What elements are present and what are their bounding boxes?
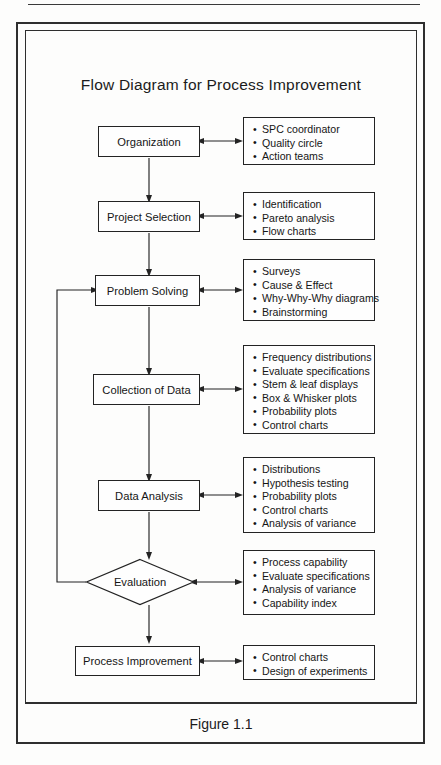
bullet-item: Stem & leaf displays	[253, 378, 368, 392]
bullets-process-improvement: Control chartsDesign of experiments	[243, 645, 375, 680]
bullet-item: Cause & Effect	[253, 279, 368, 293]
bullet-list: Frequency distributionsEvaluate specific…	[253, 351, 368, 433]
caption-divider-rule	[25, 703, 417, 704]
node-process-improvement[interactable]: Process Improvement	[75, 646, 200, 676]
node-project-selection[interactable]: Project Selection	[98, 201, 200, 232]
node-data-analysis-label: Data Analysis	[115, 490, 183, 502]
node-collection-of-data[interactable]: Collection of Data	[93, 374, 200, 405]
bullets-organization: SPC coordinatorQuality circleAction team…	[243, 117, 375, 165]
bullets-collection-of-data: Frequency distributionsEvaluate specific…	[243, 345, 375, 434]
bullet-item: Control charts	[253, 419, 368, 433]
bullets-data-analysis: DistributionsHypothesis testingProbabili…	[243, 457, 375, 533]
figure-page: Flow Diagram for Process Improvement	[0, 0, 441, 765]
bullets-problem-solving: SurveysCause & EffectWhy-Why-Why diagram…	[243, 259, 375, 321]
bullet-item: Frequency distributions	[253, 351, 368, 365]
bullet-item: Capability index	[253, 597, 368, 611]
node-organization-label: Organization	[117, 136, 180, 148]
node-evaluation-label: Evaluation	[85, 558, 195, 606]
page-header-rule	[28, 4, 420, 5]
node-problem-solving[interactable]: Problem Solving	[95, 275, 200, 306]
bullet-item: Identification	[253, 198, 368, 212]
bullet-item: Analysis of variance	[253, 517, 368, 531]
bullet-list: SurveysCause & EffectWhy-Why-Why diagram…	[253, 265, 368, 319]
bullet-item: Design of experiments	[253, 665, 368, 679]
bullet-item: Pareto analysis	[253, 212, 368, 226]
node-project-selection-label: Project Selection	[107, 211, 191, 223]
bullet-item: Hypothesis testing	[253, 477, 368, 491]
bullet-item: Flow charts	[253, 225, 368, 239]
bullet-item: Control charts	[253, 651, 368, 665]
bullets-project-selection: IdentificationPareto analysisFlow charts	[243, 192, 375, 240]
bullet-item: Control charts	[253, 504, 368, 518]
bullet-list: DistributionsHypothesis testingProbabili…	[253, 463, 368, 531]
bullet-item: Action teams	[253, 150, 368, 164]
bullet-list: Control chartsDesign of experiments	[253, 651, 368, 678]
bullet-item: SPC coordinator	[253, 123, 368, 137]
bullet-item: Analysis of variance	[253, 583, 368, 597]
bullet-list: IdentificationPareto analysisFlow charts	[253, 198, 368, 239]
figure-title: Flow Diagram for Process Improvement	[25, 76, 417, 94]
bullet-item: Why-Why-Why diagrams	[253, 292, 368, 306]
node-collection-of-data-label: Collection of Data	[102, 384, 190, 396]
bullet-item: Box & Whisker plots	[253, 392, 368, 406]
bullet-list: SPC coordinatorQuality circleAction team…	[253, 123, 368, 164]
bullet-list: Process capabilityEvaluate specification…	[253, 556, 368, 610]
bullet-item: Evaluate specifications	[253, 570, 368, 584]
bullet-item: Brainstorming	[253, 306, 368, 320]
bullet-item: Evaluate specifications	[253, 365, 368, 379]
node-data-analysis[interactable]: Data Analysis	[98, 480, 200, 511]
figure-caption: Figure 1.1	[25, 716, 417, 732]
bullets-evaluation: Process capabilityEvaluate specification…	[243, 550, 375, 615]
bullet-item: Process capability	[253, 556, 368, 570]
node-organization[interactable]: Organization	[98, 126, 200, 157]
bullet-item: Distributions	[253, 463, 368, 477]
node-problem-solving-label: Problem Solving	[107, 285, 188, 297]
bullet-item: Probability plots	[253, 490, 368, 504]
node-process-improvement-label: Process Improvement	[83, 655, 192, 667]
node-evaluation[interactable]: Evaluation	[85, 558, 195, 606]
bullet-item: Surveys	[253, 265, 368, 279]
bullet-item: Probability plots	[253, 405, 368, 419]
bullet-item: Quality circle	[253, 137, 368, 151]
